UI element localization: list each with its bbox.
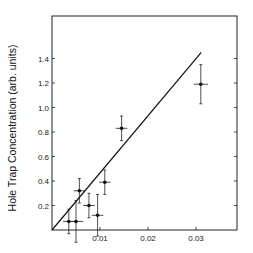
x-tick-label: 0.03 <box>188 234 204 243</box>
chart: 0.20.40.60.81.01.21.40.010.020.03Hole Tr… <box>0 0 253 253</box>
data-point <box>103 180 107 184</box>
y-tick-label: 1.0 <box>38 104 50 113</box>
data-point <box>199 82 203 86</box>
y-tick-label: 1.2 <box>38 79 50 88</box>
fit-line <box>52 52 201 230</box>
y-axis-label: Hole Trap Concentration (arb. units) <box>6 45 18 212</box>
y-tick-label: 1.4 <box>38 55 50 64</box>
data-point <box>78 189 82 193</box>
data-point <box>74 220 78 224</box>
data-point <box>96 214 100 218</box>
x-tick-label: 0.01 <box>92 234 108 243</box>
y-tick-label: 0.6 <box>38 153 50 162</box>
data-point <box>87 204 91 208</box>
y-tick-label: 0.2 <box>38 202 50 211</box>
x-tick-label: 0.02 <box>140 234 156 243</box>
y-tick-label: 0.8 <box>38 128 50 137</box>
data-point <box>120 127 124 131</box>
y-tick-label: 0.4 <box>38 177 50 186</box>
